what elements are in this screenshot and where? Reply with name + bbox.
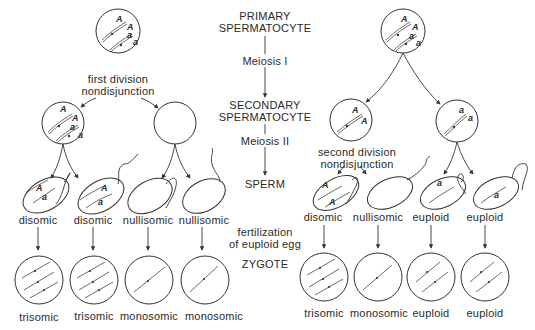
allele-a: a [98, 197, 103, 207]
label-line: second division [307, 146, 407, 158]
diagram-graphics: A A a a A A a a [0, 0, 535, 330]
allele-a: a [416, 38, 421, 48]
label-line: SPERMATOCYTE [215, 111, 315, 123]
sperm-right-4-euploid: a [468, 164, 527, 216]
right-zygote-label-1: trisomic [298, 307, 350, 319]
allele-A: A [400, 14, 408, 24]
label-line: nondisjunction [73, 85, 163, 97]
right-sperm-label-2: nullisomic [349, 211, 407, 223]
allele-a: a [468, 113, 473, 123]
allele-A: A [360, 116, 368, 126]
zygote-right-4-euploid [461, 253, 509, 301]
right-sperm-label-1: disomic [298, 211, 348, 223]
left-sperm-label-4: nullisomic [175, 214, 233, 226]
label-line: PRIMARY [215, 10, 315, 22]
allele-A: A [321, 180, 329, 190]
label-line: nondisjunction [307, 158, 407, 170]
sperm-left-1-disomic: A a [17, 170, 75, 221]
left-event-label: first division nondisjunction [73, 73, 163, 97]
label-line: SPERMATOCYTE [215, 22, 315, 34]
zygote-left-1-trisomic [15, 256, 63, 304]
stage-label-primary-spermatocyte: PRIMARY SPERMATOCYTE [215, 10, 315, 34]
zygote-left-3-monosomic [125, 256, 173, 304]
allele-a: a [70, 122, 75, 132]
left-primary-spermatocyte: A A a a [96, 9, 140, 53]
left-sperm-label-2: disomic [68, 214, 118, 226]
allele-a: a [133, 37, 138, 47]
allele-A: A [351, 105, 359, 115]
left-sperm-label-3: nullisomic [119, 214, 177, 226]
right-sperm-label-3: euploid [406, 211, 456, 223]
zygote-right-3-euploid [407, 253, 455, 301]
left-zygote-label-3: monosomic [119, 310, 179, 322]
nondisjunction-diagram: A A a a A A a a [0, 0, 535, 330]
allele-a: a [127, 30, 132, 40]
stage-label-meiosis-2: Meiosis II [215, 135, 315, 147]
allele-A: A [115, 14, 123, 24]
zygote-right-2-monosomic [354, 253, 402, 301]
stage-label-fertilization: fertilization of euploid egg [215, 226, 315, 250]
label-line: of euploid egg [215, 238, 315, 250]
right-secondary-AA: A A [330, 99, 372, 141]
right-primary-spermatocyte: A A a a [381, 9, 425, 53]
right-event-label: second division nondisjunction [307, 146, 407, 170]
left-zygote-label-2: trisomic [68, 310, 120, 322]
allele-a: a [409, 31, 414, 41]
right-secondary-aa: a a [436, 100, 478, 142]
allele-A: A [328, 197, 336, 207]
left-sperm-label-1: disomic [13, 214, 63, 226]
right-sperm-label-4: euploid [460, 211, 510, 223]
allele-A: A [59, 104, 67, 114]
allele-a: a [494, 190, 499, 200]
allele-a: a [437, 178, 442, 188]
allele-a: a [42, 192, 47, 202]
left-zygote-label-1: trisomic [13, 311, 65, 323]
stage-label-sperm: SPERM [215, 178, 315, 190]
zygote-left-2-trisomic [70, 256, 118, 304]
right-zygote-label-2: monosomic [349, 307, 409, 319]
allele-a: a [459, 105, 464, 115]
left-zygote-label-4: monosomic [184, 310, 244, 322]
allele-a: a [78, 130, 83, 140]
sperm-left-2-disomic: A a [72, 154, 138, 221]
label-line: fertilization [215, 226, 315, 238]
allele-A: A [100, 183, 108, 193]
left-secondary-empty [154, 102, 196, 144]
label-line: SECONDARY [215, 99, 315, 111]
right-zygote-label-4: euploid [460, 307, 510, 319]
label-line: first division [73, 73, 163, 85]
stage-label-secondary-spermatocyte: SECONDARY SPERMATOCYTE [215, 99, 315, 123]
stage-label-zygote: ZYGOTE [215, 258, 315, 270]
left-secondary-disomic: A A a a [42, 102, 84, 144]
stage-label-meiosis-1: Meiosis I [215, 55, 315, 67]
right-zygote-label-3: euploid [406, 307, 456, 319]
sperm-right-3-euploid: a [415, 170, 470, 216]
